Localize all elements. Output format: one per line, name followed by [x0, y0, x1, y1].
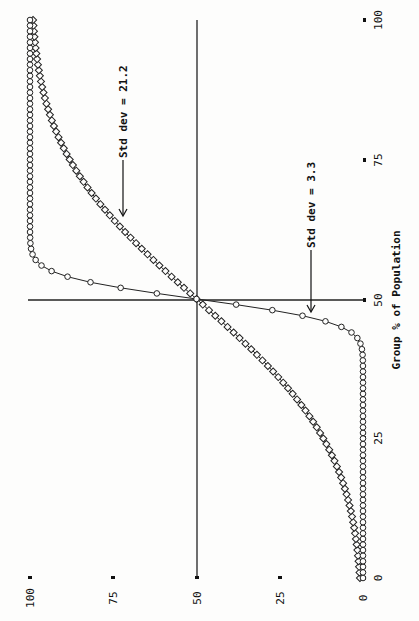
cdf-chart: 0 25 50 75 100 Group % of Population 100… — [0, 0, 419, 621]
svg-text:25: 25 — [372, 431, 385, 444]
y-axis-tick-labels: 100 75 50 25 0 — [24, 588, 370, 608]
svg-text:100: 100 — [24, 588, 37, 608]
svg-text:0: 0 — [372, 575, 385, 582]
svg-text:Std dev = 21.2: Std dev = 21.2 — [117, 65, 130, 158]
y-axis-ticks — [28, 576, 365, 579]
svg-text:100: 100 — [372, 10, 385, 30]
svg-text:50: 50 — [372, 293, 385, 306]
svg-text:0: 0 — [357, 595, 370, 602]
x-axis-tick-labels: 0 25 50 75 100 — [372, 10, 385, 581]
svg-text:75: 75 — [372, 153, 385, 166]
annotation-std-21-2: Std dev = 21.2 — [117, 65, 130, 216]
annotation-std-3-3: Std dev = 3.3 — [305, 162, 318, 312]
svg-text:75: 75 — [107, 591, 120, 604]
x-axis-title: Group % of Population — [390, 230, 403, 369]
svg-text:50: 50 — [191, 591, 204, 604]
svg-text:Std dev = 3.3: Std dev = 3.3 — [305, 162, 318, 248]
svg-text:25: 25 — [274, 591, 287, 604]
